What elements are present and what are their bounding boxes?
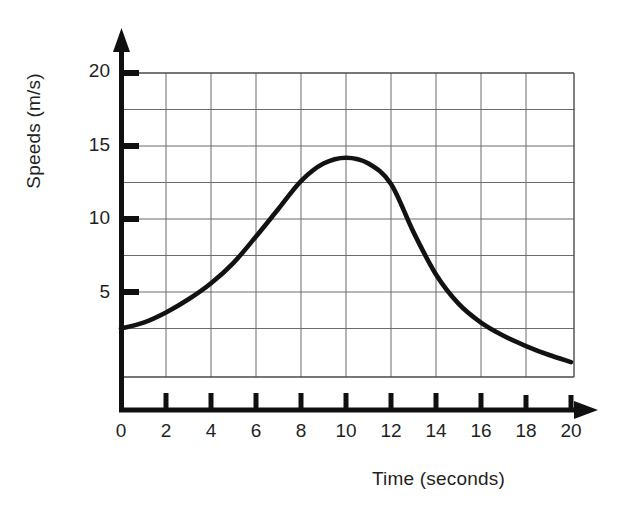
speed-time-chart: Speeds (m/s) Time (seconds) 20 15 10 5 0…	[0, 0, 628, 520]
horizontal-gridlines	[121, 110, 574, 329]
x-axis-ticks	[166, 393, 571, 410]
vertical-gridlines	[166, 73, 526, 377]
chart-canvas	[0, 0, 628, 520]
grid-border	[121, 73, 574, 377]
